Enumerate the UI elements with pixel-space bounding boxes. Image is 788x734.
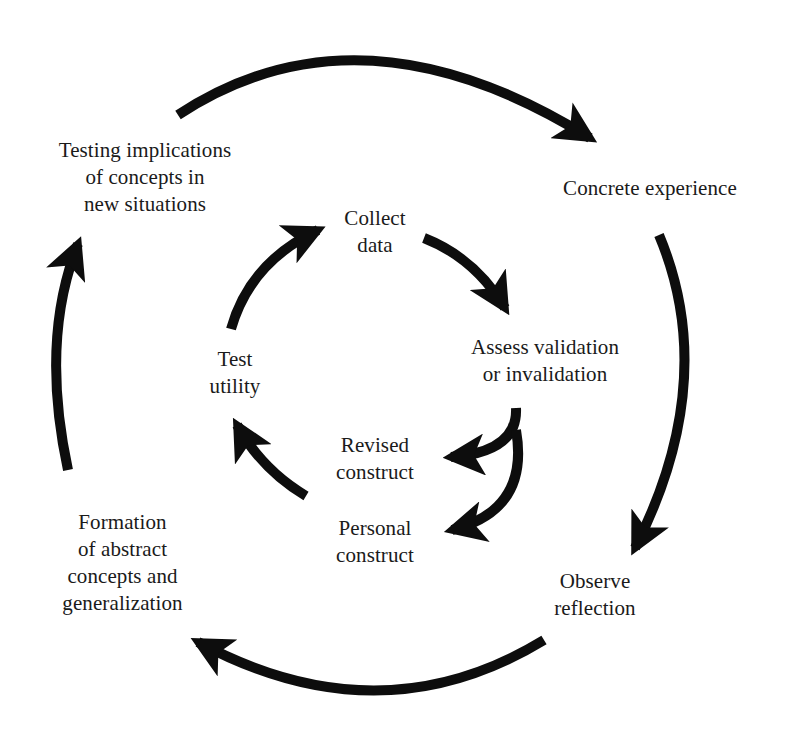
node-label-line: Formation (40, 509, 205, 536)
node-label-line: reflection (520, 595, 670, 622)
arrow-assess-to-revised (451, 408, 516, 457)
arrow-test-to-collect (231, 230, 318, 329)
node-assess-validation: Assess validation or invalidation (450, 334, 640, 388)
node-label-line: data (320, 232, 430, 259)
node-label-line: new situations (30, 191, 260, 218)
node-label-line: generalization (40, 590, 205, 617)
node-label-line: of abstract (40, 536, 205, 563)
node-observe-reflection: Observe reflection (520, 568, 670, 622)
arrow-assess-to-personal (452, 430, 518, 530)
arrow-revised-to-test (237, 425, 306, 496)
node-label-line: Test (190, 346, 280, 373)
node-label-line: utility (190, 373, 280, 400)
node-label-line: construct (315, 459, 435, 486)
node-label-line: Testing implications (30, 137, 260, 164)
arrows-layer (0, 0, 788, 734)
arrow-observe-to-formation (198, 640, 544, 691)
node-label-line: of concepts in (30, 164, 260, 191)
node-label-line: Revised (315, 432, 435, 459)
node-label-line: Collect (320, 205, 430, 232)
node-label-line: or invalidation (450, 361, 640, 388)
node-label-line: Personal (315, 515, 435, 542)
node-formation-abstract-concepts: Formation of abstract concepts and gener… (40, 509, 205, 617)
node-label-line: Assess validation (450, 334, 640, 361)
node-label-line: Observe (520, 568, 670, 595)
arrow-testing-to-concrete (178, 60, 590, 138)
node-label-line: Concrete experience (535, 175, 765, 202)
node-label-line: construct (315, 542, 435, 569)
arrow-collect-to-assess (424, 238, 505, 308)
node-label-line: concepts and (40, 563, 205, 590)
node-test-utility: Test utility (190, 346, 280, 400)
node-personal-construct: Personal construct (315, 515, 435, 569)
arrow-concrete-to-observe (635, 235, 684, 548)
node-revised-construct: Revised construct (315, 432, 435, 486)
node-testing-implications: Testing implications of concepts in new … (30, 137, 260, 218)
node-concrete-experience: Concrete experience (535, 175, 765, 202)
node-collect-data: Collect data (320, 205, 430, 259)
arrow-formation-to-testing (56, 244, 78, 470)
